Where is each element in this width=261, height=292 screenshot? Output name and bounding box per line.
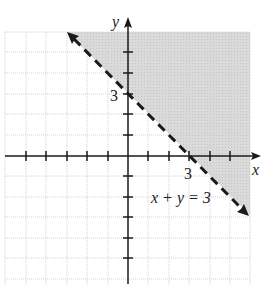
y-axis-label: y (110, 13, 120, 31)
x-axis-label: x (251, 161, 259, 178)
line-equation-label: x + y = 3 (150, 189, 211, 207)
x-tick-label: 3 (184, 165, 192, 182)
y-tick-label: 3 (110, 87, 118, 104)
inequality-graph: y x 3 3 x + y = 3 (0, 0, 261, 292)
